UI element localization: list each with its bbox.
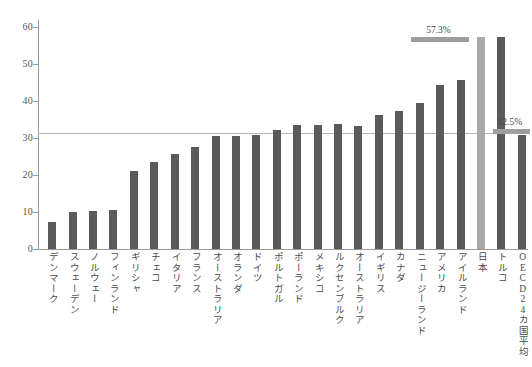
bar-chart: 0102030405060 57.3%32.5% デンマークスウェーデンノルウェ…	[0, 0, 532, 367]
plot-area: 57.3%32.5%	[38, 20, 528, 249]
x-axis-category-label: ポルトガル	[271, 252, 283, 305]
bar	[436, 85, 444, 249]
x-axis-category-label: アイルランド	[455, 252, 467, 315]
x-axis-category-label: フィンランド	[107, 252, 119, 315]
bar	[48, 222, 56, 249]
y-axis-tick-label: 20	[3, 170, 33, 180]
bar	[191, 147, 199, 249]
bar	[457, 80, 465, 249]
bar	[273, 130, 281, 249]
bar	[334, 124, 342, 249]
annotation-value-label: 57.3%	[426, 25, 451, 35]
x-axis-category-label: イギリス	[373, 252, 385, 294]
annotation-marker-bar	[493, 129, 531, 134]
annotation-value-label: 32.5%	[498, 117, 523, 127]
y-axis-tick-label: 10	[3, 207, 33, 217]
x-axis-category-label: カナダ	[393, 252, 405, 284]
x-axis-category-label: トルコ	[495, 252, 507, 284]
bar	[314, 125, 322, 249]
x-axis-category-label: ニュージーランド	[414, 252, 426, 336]
y-axis-tick-label: 30	[3, 133, 33, 143]
annotation-marker-bar	[411, 37, 469, 42]
bar	[375, 115, 383, 249]
y-axis-line	[38, 20, 39, 249]
x-axis-category-label: OECD24カ国平均	[516, 252, 528, 357]
bar	[109, 210, 117, 249]
x-axis-category-label: ポーランド	[291, 252, 303, 305]
bar	[232, 136, 240, 249]
bar	[416, 103, 424, 249]
y-axis-labels: 0102030405060	[0, 20, 33, 249]
x-axis-labels: デンマークスウェーデンノルウェーフィンランドギリシャチェコイタリアフランスオース…	[38, 252, 528, 367]
bar	[89, 211, 97, 249]
bar	[252, 135, 260, 250]
x-axis-category-label: メキシコ	[312, 252, 324, 294]
bar	[293, 125, 301, 249]
x-axis-category-label: チェコ	[148, 252, 160, 284]
x-axis-category-label: スウェーデン	[67, 252, 79, 315]
x-axis-category-label: フランス	[189, 252, 201, 294]
bar	[497, 37, 505, 249]
reference-line	[38, 133, 528, 134]
x-axis-category-label: 日本	[475, 252, 487, 273]
x-axis-line	[38, 249, 528, 250]
y-axis-tick-label: 60	[3, 22, 33, 32]
y-axis-tick-label: 40	[3, 96, 33, 106]
bar	[130, 171, 138, 249]
x-axis-category-label: ノルウェー	[87, 252, 99, 305]
y-axis-tick-label: 0	[3, 244, 33, 254]
x-axis-category-label: アメリカ	[434, 252, 446, 294]
y-axis-tick-label: 50	[3, 59, 33, 69]
x-axis-category-label: オーストラリア	[210, 252, 222, 326]
bar	[171, 154, 179, 249]
bar	[150, 162, 158, 249]
bar	[69, 212, 77, 249]
bar	[395, 111, 403, 249]
x-axis-category-label: ギリシャ	[128, 252, 140, 294]
bar	[212, 136, 220, 249]
x-axis-category-label: ドイツ	[250, 252, 262, 284]
bar	[477, 37, 485, 249]
x-axis-category-label: オーストラリア	[352, 252, 364, 326]
bar	[354, 126, 362, 249]
x-axis-category-label: デンマーク	[46, 252, 58, 305]
x-axis-category-label: イタリア	[169, 252, 181, 294]
x-axis-category-label: オランダ	[230, 252, 242, 294]
bar	[518, 135, 526, 250]
x-axis-category-label: ルクセンブルク	[332, 252, 344, 326]
